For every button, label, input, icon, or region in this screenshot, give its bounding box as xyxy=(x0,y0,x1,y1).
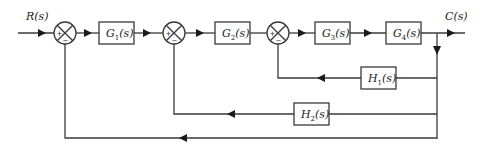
svg-text:G2(s): G2(s) xyxy=(222,27,250,42)
arrow-icon xyxy=(179,134,187,142)
svg-text:H2(s): H2(s) xyxy=(300,108,329,123)
minus-sign: − xyxy=(276,37,282,45)
minus-sign: − xyxy=(172,37,178,45)
arrow-icon xyxy=(447,29,455,37)
arrow-icon xyxy=(298,29,306,37)
input-label: R(s) xyxy=(25,10,49,23)
feedback-loop-h1: H1(s) xyxy=(278,44,437,89)
summing-junction-2: + − xyxy=(163,22,185,45)
arrow-icon xyxy=(196,29,204,37)
output-signal: C(s) xyxy=(421,10,468,37)
arrow-icon xyxy=(317,74,325,82)
svg-text:H1(s): H1(s) xyxy=(367,72,396,87)
block-g1: G1(s) xyxy=(99,22,134,44)
svg-text:G1(s): G1(s) xyxy=(106,27,134,42)
feedback-loop-h2: H2(s) xyxy=(174,44,437,125)
block-g3: G3(s) xyxy=(315,22,350,44)
arrow-icon xyxy=(143,29,151,37)
summing-junction-3: + − xyxy=(267,22,289,45)
arrow-icon xyxy=(433,46,441,55)
input-signal: R(s) xyxy=(18,10,54,37)
output-label: C(s) xyxy=(445,10,468,23)
arrow-icon xyxy=(84,29,92,37)
block-g4: G4(s) xyxy=(386,22,421,44)
feedback-loop-unity xyxy=(65,44,437,142)
summing-junction-1: + − xyxy=(54,22,76,45)
svg-text:G3(s): G3(s) xyxy=(322,27,350,42)
block-diagram: R(s) + − G1(s) + − G2(s) xyxy=(0,0,491,151)
arrow-icon xyxy=(38,29,46,37)
svg-text:G4(s): G4(s) xyxy=(393,27,421,42)
block-g2: G2(s) xyxy=(215,22,250,44)
arrow-icon xyxy=(227,110,235,118)
minus-sign: − xyxy=(63,37,69,45)
arrow-icon xyxy=(364,29,372,37)
